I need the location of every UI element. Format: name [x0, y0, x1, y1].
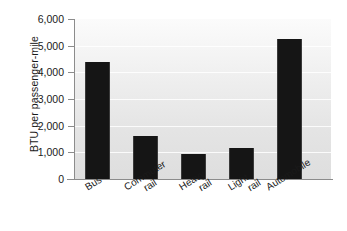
y-tick-mark-4000 [68, 72, 74, 73]
bar-automobile [277, 39, 302, 179]
y-tick-mark-2000 [68, 126, 74, 127]
bar-chart-figure: BTU per passenger-mile 6,000 5,000 4,000… [0, 0, 347, 231]
y-tick-mark-0 [68, 179, 74, 180]
y-tick-label-4000: 4,000 [38, 66, 64, 78]
y-tick-mark-1000 [68, 152, 74, 153]
y-axis-line [74, 19, 75, 180]
y-tick-label-6000: 6,000 [38, 13, 64, 25]
y-tick-mark-6000 [68, 19, 74, 20]
y-tick-label-0: 0 [58, 173, 64, 185]
y-tick-mark-5000 [68, 46, 74, 47]
y-tick-label-2000: 2,000 [38, 120, 64, 132]
y-tick-label-3000: 3,000 [38, 93, 64, 105]
y-tick-label-1000: 1,000 [38, 146, 64, 158]
y-tick-mark-3000 [68, 99, 74, 100]
y-tick-label-5000: 5,000 [38, 40, 64, 52]
bar-bus [85, 62, 110, 179]
